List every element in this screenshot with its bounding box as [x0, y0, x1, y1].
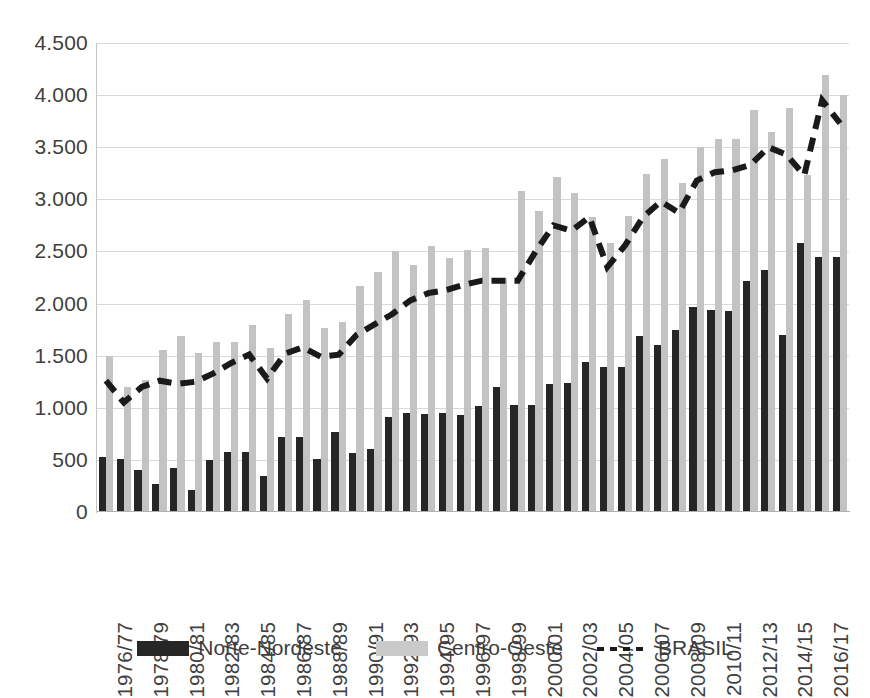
y-axis-tick-label: 0 — [2, 500, 88, 524]
legend-swatch-dashed-line-icon — [597, 641, 649, 656]
brasil-line-series — [106, 100, 840, 402]
y-axis-tick-label: 2.500 — [2, 239, 88, 263]
legend-label-norte-nordeste: Norte-Nordeste — [198, 636, 342, 660]
legend-swatch-bar-dark-icon — [137, 641, 189, 656]
legend-item-norte-nordeste[interactable]: Norte-Nordeste — [137, 636, 342, 660]
plot-area — [97, 43, 849, 512]
y-axis-tick-label: 3.000 — [2, 187, 88, 211]
y-axis-tick-label: 3.500 — [2, 135, 88, 159]
y-axis-labels: 05001.0001.5002.0002.5003.0003.5004.0004… — [0, 0, 88, 678]
y-axis-tick-label: 4.500 — [2, 31, 88, 55]
y-axis-tick-label: 500 — [2, 448, 88, 472]
x-axis-line — [97, 511, 850, 512]
y-axis-tick-label: 1.500 — [2, 344, 88, 368]
y-axis-tick-label: 4.000 — [2, 83, 88, 107]
legend-swatch-bar-gray-icon — [376, 641, 428, 656]
legend-item-centro-oeste[interactable]: Centro-Oeste — [376, 636, 563, 660]
legend-label-brasil: BRASIL — [658, 636, 733, 660]
chart-legend: Norte-Nordeste Centro-Oeste BRASIL — [0, 636, 870, 660]
x-axis-labels: 1976/771978/791980/811982/831984/851986/… — [97, 518, 849, 628]
y-axis-tick-label: 1.000 — [2, 396, 88, 420]
brasil-line-layer — [97, 43, 849, 512]
y-axis-tick-label: 2.000 — [2, 292, 88, 316]
legend-item-brasil[interactable]: BRASIL — [597, 636, 733, 660]
legend-label-centro-oeste: Centro-Oeste — [437, 636, 563, 660]
